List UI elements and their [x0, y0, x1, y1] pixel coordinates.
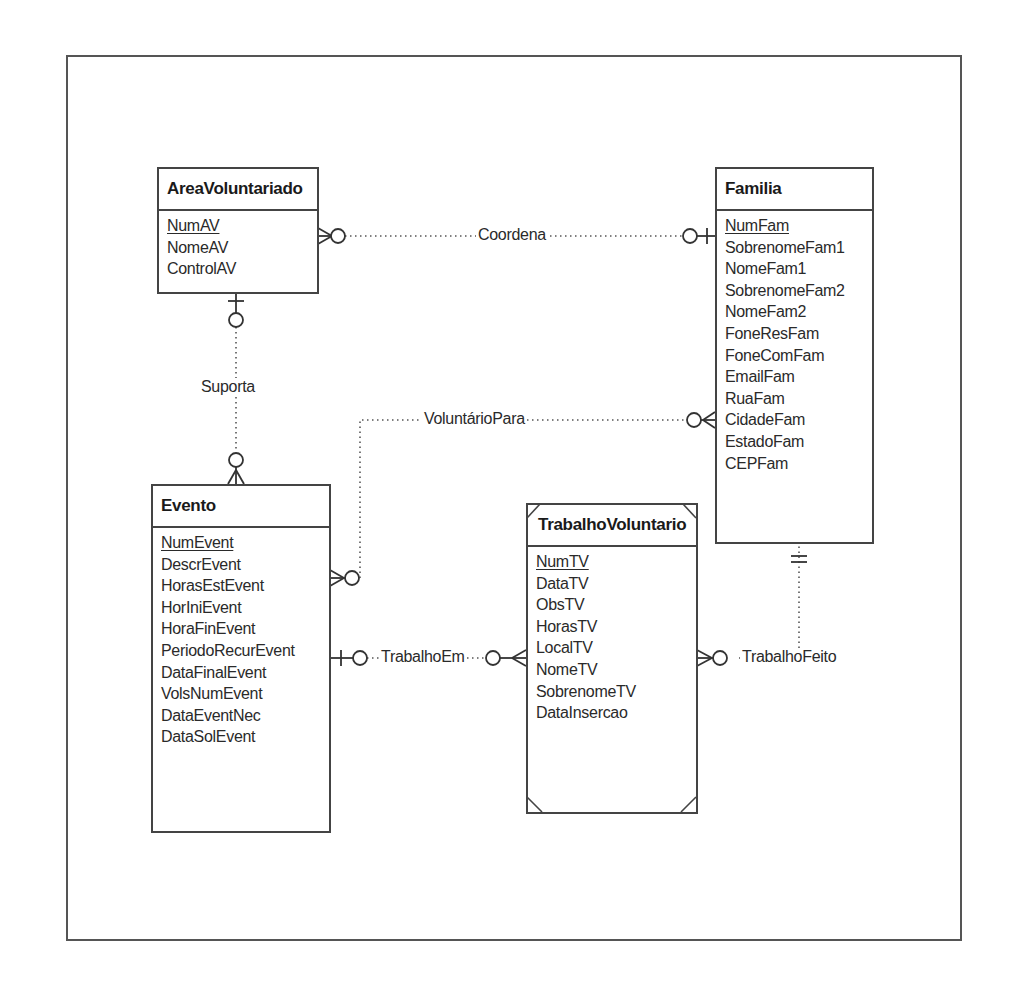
attribute: NomeFam2 [725, 301, 872, 323]
diagram-canvas: AreaVoluntariado NumAV NomeAV ControlAV … [0, 0, 1016, 983]
entity-evento: Evento NumEvent DescrEvent HorasEstEvent… [151, 484, 331, 833]
attribute-list: NumEvent DescrEvent HorasEstEvent HorIni… [153, 528, 329, 748]
attribute: SobrenomeFam2 [725, 280, 872, 302]
entity-title: Evento [153, 486, 329, 528]
attribute: DescrEvent [161, 554, 329, 576]
attribute: RuaFam [725, 388, 872, 410]
attribute-primary-key: NumAV [167, 215, 317, 237]
attribute: DataSolEvent [161, 726, 329, 748]
attribute: CidadeFam [725, 409, 872, 431]
attribute-list: NumFam SobrenomeFam1 NomeFam1 SobrenomeF… [717, 211, 872, 474]
attribute: PeriodoRecurEvent [161, 640, 329, 662]
attribute: DataInsercao [536, 702, 696, 724]
attribute: DataEventNec [161, 705, 329, 727]
attribute: EstadoFam [725, 431, 872, 453]
attribute: NomeAV [167, 237, 317, 259]
attribute: HorIniEvent [161, 597, 329, 619]
attribute: ControlAV [167, 258, 317, 280]
attribute: DataFinalEvent [161, 662, 329, 684]
attribute: DataTV [536, 573, 696, 595]
entity-areavoluntariado: AreaVoluntariado NumAV NomeAV ControlAV [157, 167, 319, 294]
attribute: NomeTV [536, 659, 696, 681]
attribute: LocalTV [536, 637, 696, 659]
attribute: HorasEstEvent [161, 575, 329, 597]
attribute-primary-key: NumFam [725, 215, 872, 237]
attribute-primary-key: NumTV [536, 551, 696, 573]
attribute: VolsNumEvent [161, 683, 329, 705]
relationship-label-trabalhoem: TrabalhoEm [379, 648, 467, 666]
attribute: ObsTV [536, 594, 696, 616]
attribute: SobrenomeFam1 [725, 237, 872, 259]
relationship-label-trabalhofeito: TrabalhoFeito [740, 648, 838, 666]
attribute-list: NumTV DataTV ObsTV HorasTV LocalTV NomeT… [528, 547, 696, 724]
entity-familia: Familia NumFam SobrenomeFam1 NomeFam1 So… [715, 167, 874, 544]
relationship-label-voluntariopara: VoluntárioPara [422, 410, 527, 428]
attribute: SobrenomeTV [536, 681, 696, 703]
entity-title: TrabalhoVoluntario [528, 505, 696, 547]
attribute: HoraFinEvent [161, 618, 329, 640]
attribute: FoneResFam [725, 323, 872, 345]
attribute: CEPFam [725, 453, 872, 475]
relationship-label-coordena: Coordena [476, 226, 548, 244]
entity-title: Familia [717, 169, 872, 211]
attribute: HorasTV [536, 616, 696, 638]
entity-trabalhovoluntario: TrabalhoVoluntario NumTV DataTV ObsTV Ho… [526, 503, 698, 814]
attribute: EmailFam [725, 366, 872, 388]
attribute: NomeFam1 [725, 258, 872, 280]
attribute: FoneComFam [725, 345, 872, 367]
relationship-label-suporta: Suporta [199, 378, 257, 396]
attribute-list: NumAV NomeAV ControlAV [159, 211, 317, 280]
attribute-primary-key: NumEvent [161, 532, 329, 554]
entity-title: AreaVoluntariado [159, 169, 317, 211]
